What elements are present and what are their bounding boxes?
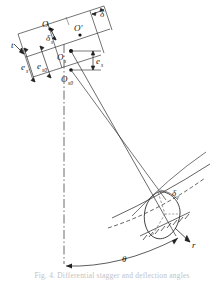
upper-outer-arc (132, 152, 206, 216)
label-e-s-subscript: s (101, 62, 103, 68)
label-e-s-prime: e (21, 62, 25, 72)
point-o (48, 27, 51, 30)
radius-line-secondary (71, 70, 166, 200)
inset-upper-guide (18, 6, 104, 34)
inset-far-right-edge (104, 6, 112, 30)
label-e-s: e (96, 56, 100, 66)
label-o-s0: O (61, 74, 68, 84)
label-o-s: O (57, 52, 64, 62)
radius-line-primary (71, 51, 176, 236)
label-theta: θ (122, 254, 127, 264)
top-inset-construction (18, 6, 112, 80)
dim-e-s-prime (24, 48, 35, 82)
label-delta: δ (100, 9, 105, 19)
label-e-s0: e (37, 61, 41, 71)
figure-caption: Fig. 4. Differential stagger and deflect… (0, 268, 224, 282)
label-delta-s-group: δ s (46, 33, 53, 45)
label-t: t (11, 40, 14, 50)
label-e-s-group: e s (96, 56, 103, 68)
arrow-t (14, 44, 24, 54)
label-o-s0-group: O s0 (61, 74, 73, 86)
inner-dashed-arc (108, 178, 205, 228)
technical-figure: O O′ δ δ s t e s′ e s0 O s O s0 e s (0, 0, 224, 282)
arrow-r (175, 228, 190, 242)
label-o-prime: O′ (74, 23, 83, 33)
point-o-prime (78, 33, 81, 36)
label-delta-s-subscript: s (51, 39, 53, 45)
label-delta-epsilon-group: δ ε (172, 188, 180, 200)
label-o-s-group: O s (57, 52, 66, 64)
label-o-s0-subscript: s0 (68, 80, 73, 86)
label-o-s-subscript: s (64, 58, 66, 64)
figure-drawing: O O′ δ δ s t e s′ e s0 O s O s0 e s (0, 0, 224, 282)
label-o: O (42, 19, 49, 29)
label-e-s0-subscript: s0 (42, 67, 47, 73)
label-r: r (192, 240, 196, 250)
